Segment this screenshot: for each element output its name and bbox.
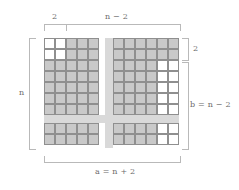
grid-cell — [44, 60, 55, 71]
grid-cell — [44, 123, 55, 134]
grid-cell — [44, 49, 55, 60]
grid-cell — [135, 93, 146, 104]
grid-cell — [66, 71, 77, 82]
grid-cell — [135, 123, 146, 134]
grid-cell — [55, 134, 66, 145]
grid-cell — [146, 123, 157, 134]
grid-cell — [157, 38, 168, 49]
grid-cell — [55, 71, 66, 82]
grid-cell — [135, 38, 146, 49]
grid-cell — [88, 104, 99, 115]
grid-cell — [146, 82, 157, 93]
grid-cell — [135, 60, 146, 71]
grid-cell — [113, 104, 124, 115]
grid-cell — [135, 49, 146, 60]
vertical-gap-band — [105, 38, 113, 148]
bottom-brace — [44, 156, 181, 163]
grid-cell — [77, 82, 88, 93]
label-right-bottom: b = n − 2 — [190, 100, 231, 109]
grid-cell — [77, 104, 88, 115]
grid-cell — [168, 49, 179, 60]
grid-cell — [44, 93, 55, 104]
grid-cell — [88, 38, 99, 49]
grid-cell — [168, 60, 179, 71]
grid-cell — [135, 104, 146, 115]
grid-cell — [157, 71, 168, 82]
grid-cell — [88, 49, 99, 60]
grid-cell — [55, 38, 66, 49]
right-brace-bottom — [182, 62, 189, 150]
grid-cell — [146, 104, 157, 115]
grid-cell — [113, 60, 124, 71]
grid-cell — [55, 104, 66, 115]
top-brace — [44, 24, 181, 31]
grid-cell — [113, 134, 124, 145]
grid-cell — [157, 82, 168, 93]
grid-cell — [146, 38, 157, 49]
grid-cell — [168, 71, 179, 82]
top-brace-divider-tick — [66, 24, 67, 31]
grid-cell — [146, 71, 157, 82]
grid-cell — [157, 49, 168, 60]
grid-cell — [157, 60, 168, 71]
label-top-left: 2 — [52, 12, 57, 21]
grid-cell — [168, 93, 179, 104]
grid-cell — [77, 134, 88, 145]
grid-cell — [77, 71, 88, 82]
grid-cell — [135, 134, 146, 145]
label-right-top: 2 — [193, 44, 198, 53]
label-bottom: a = n + 2 — [95, 167, 135, 176]
grid-cell — [168, 82, 179, 93]
grid-cell — [168, 123, 179, 134]
grid-cell — [113, 38, 124, 49]
grid-cell — [113, 123, 124, 134]
horizontal-gap-band — [44, 115, 179, 123]
grid-cell — [124, 71, 135, 82]
grid-cell — [66, 82, 77, 93]
grid-cell — [135, 82, 146, 93]
right-brace-top — [182, 38, 189, 61]
piece-upper-right — [113, 38, 179, 115]
label-left: n — [19, 88, 24, 97]
grid-cell — [157, 123, 168, 134]
grid-cell — [88, 123, 99, 134]
grid-cell — [44, 82, 55, 93]
grid-cell — [113, 82, 124, 93]
grid-cell — [124, 60, 135, 71]
grid-cell — [44, 38, 55, 49]
grid-cell — [124, 82, 135, 93]
grid-cell — [124, 104, 135, 115]
diagram-canvas: 2 n − 2 n 2 b = n − 2 a = n + 2 — [0, 0, 239, 190]
grid-cell — [146, 134, 157, 145]
grid-cell — [55, 49, 66, 60]
grid-cell — [66, 93, 77, 104]
grid-cell — [77, 60, 88, 71]
grid-cell — [88, 71, 99, 82]
grid-cell — [77, 93, 88, 104]
grid-cell — [124, 49, 135, 60]
grid-cell — [157, 93, 168, 104]
grid-cell — [55, 82, 66, 93]
grid-cell — [66, 60, 77, 71]
piece-lower-left — [44, 123, 99, 145]
grid-cell — [66, 49, 77, 60]
grid-cell — [88, 93, 99, 104]
grid-cell — [88, 60, 99, 71]
grid-cell — [168, 38, 179, 49]
grid-cell — [135, 71, 146, 82]
grid-cell — [55, 93, 66, 104]
grid-cell — [124, 123, 135, 134]
label-top-right: n − 2 — [105, 12, 128, 21]
grid-cell — [146, 93, 157, 104]
grid-cell — [66, 38, 77, 49]
grid-cell — [77, 38, 88, 49]
grid-cell — [44, 134, 55, 145]
grid-cell — [146, 49, 157, 60]
grid-cell — [77, 49, 88, 60]
grid-cell — [66, 134, 77, 145]
grid-cell — [55, 60, 66, 71]
grid-cell — [77, 123, 88, 134]
grid-cell — [124, 93, 135, 104]
grid-cell — [66, 123, 77, 134]
grid-cell — [66, 104, 77, 115]
